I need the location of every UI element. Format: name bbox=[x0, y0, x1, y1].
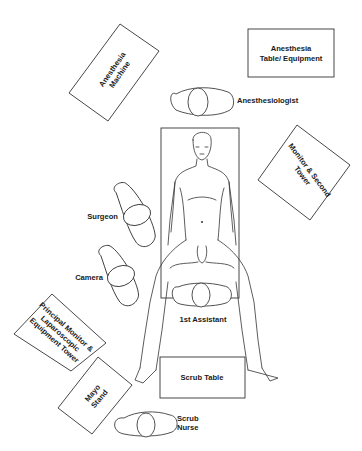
camera: Camera bbox=[75, 239, 145, 309]
surgeon-label: Surgeon bbox=[87, 212, 118, 221]
surgeon: Surgeon bbox=[87, 176, 161, 250]
anesthesia-table: Anesthesia Table/ Equipment bbox=[248, 29, 334, 77]
scrub-table-label: Scrub Table bbox=[181, 373, 224, 382]
scrub-nurse: Scrub Nurse bbox=[115, 412, 199, 437]
anesthesia-machine: Anesthesia Machine bbox=[69, 24, 159, 121]
scrub-nurse-label-1: Scrub bbox=[177, 414, 199, 423]
first-assistant-label: 1st Assistant bbox=[180, 315, 227, 324]
patient-figure bbox=[135, 132, 278, 383]
first-assistant: 1st Assistant bbox=[172, 283, 231, 324]
anesthesiologist-label: Anesthesiologist bbox=[237, 96, 299, 105]
anesthesia-table-label-2: Table/ Equipment bbox=[260, 54, 323, 63]
or-setup-diagram: Anesthesia Machine Anesthesia Table/ Equ… bbox=[0, 0, 362, 451]
scrub-nurse-label-2: Nurse bbox=[177, 423, 199, 432]
camera-label: Camera bbox=[75, 273, 104, 282]
anesthesiologist: Anesthesiologist bbox=[171, 88, 299, 116]
monitor-second-tower: Monitor & Second Tower bbox=[258, 125, 350, 220]
scrub-table: Scrub Table bbox=[160, 357, 245, 398]
principal-monitor-tower: Principal Monitor & Laparoscopic Equipme… bbox=[14, 294, 106, 371]
anesthesia-table-label-1: Anesthesia bbox=[271, 44, 312, 53]
